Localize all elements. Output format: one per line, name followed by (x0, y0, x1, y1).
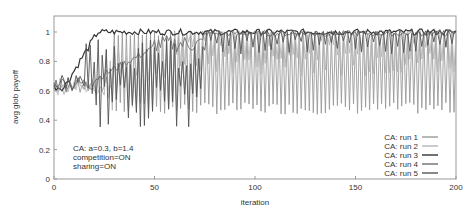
legend-label: CA: run 1 (384, 133, 418, 142)
legend-label: CA: run 4 (384, 160, 418, 169)
series-layer (54, 29, 456, 127)
legend-label: CA: run 5 (384, 169, 418, 178)
legend-label: CA: run 3 (384, 151, 418, 160)
y-tick-label: 0 (46, 175, 51, 184)
y-axis-label: avg glob payoff (11, 69, 20, 124)
x-tick-label: 0 (52, 183, 57, 192)
y-tick-label: 1 (46, 28, 51, 37)
legend: CA: run 1CA: run 2CA: run 3CA: run 4CA: … (384, 133, 438, 178)
x-tick-label: 150 (349, 183, 363, 192)
legend-label: CA: run 2 (384, 142, 418, 151)
y-tick-label: 0.8 (39, 57, 51, 66)
y-tick-label: 0.4 (39, 116, 51, 125)
x-tick-label: 200 (449, 183, 463, 192)
x-axis-ticks: 050100150200 (52, 176, 463, 192)
y-tick-label: 0.6 (39, 87, 51, 96)
y-tick-label: 0.2 (39, 146, 51, 155)
x-axis-label: iteration (241, 198, 269, 207)
annotation-line-2: competition=ON (73, 153, 131, 162)
series-line (54, 31, 456, 115)
x-tick-label: 50 (150, 183, 159, 192)
x-tick-label: 100 (248, 183, 262, 192)
annotation: CA: a=0.3, b=1.4 competition=ON sharing=… (73, 144, 134, 171)
annotation-line-3: sharing=ON (73, 162, 116, 171)
line-chart: 00.20.40.60.81 050100150200 iteration av… (0, 0, 476, 211)
annotation-line-1: CA: a=0.3, b=1.4 (73, 144, 134, 153)
